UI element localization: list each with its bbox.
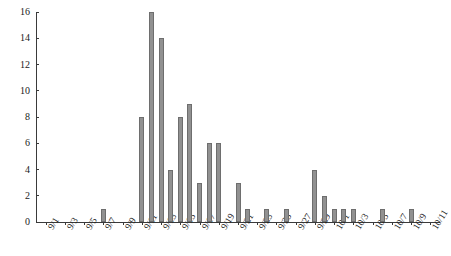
bar <box>332 209 337 222</box>
y-tick-label: 10 <box>20 84 30 97</box>
bar <box>216 143 221 222</box>
bar <box>187 104 192 222</box>
y-tick-label: 6 <box>25 136 30 149</box>
y-tick-label: 8 <box>25 110 30 123</box>
bar <box>149 12 154 222</box>
y-tick-label: 4 <box>25 163 30 176</box>
y-tick-label: 0 <box>25 215 30 228</box>
bar <box>168 170 173 223</box>
y-tick-label: 2 <box>25 189 30 202</box>
y-tick-label: 14 <box>20 31 30 44</box>
bar <box>236 183 241 222</box>
bar <box>341 209 346 222</box>
bar <box>159 38 164 222</box>
bar <box>409 209 414 222</box>
y-tick-label: 12 <box>20 58 30 71</box>
bar <box>312 170 317 223</box>
bar <box>380 209 385 222</box>
bar <box>351 209 356 222</box>
y-tick-label: 16 <box>20 5 30 18</box>
bar <box>101 209 106 222</box>
bar <box>197 183 202 222</box>
bar <box>207 143 212 222</box>
bar <box>245 209 250 222</box>
bar <box>178 117 183 222</box>
bar <box>139 117 144 222</box>
plot-area: 0246810121416 9/19/39/59/79/99/119/139/1… <box>36 12 440 222</box>
bar <box>284 209 289 222</box>
bar <box>322 196 327 222</box>
bar <box>264 209 269 222</box>
bar-series <box>36 12 440 222</box>
